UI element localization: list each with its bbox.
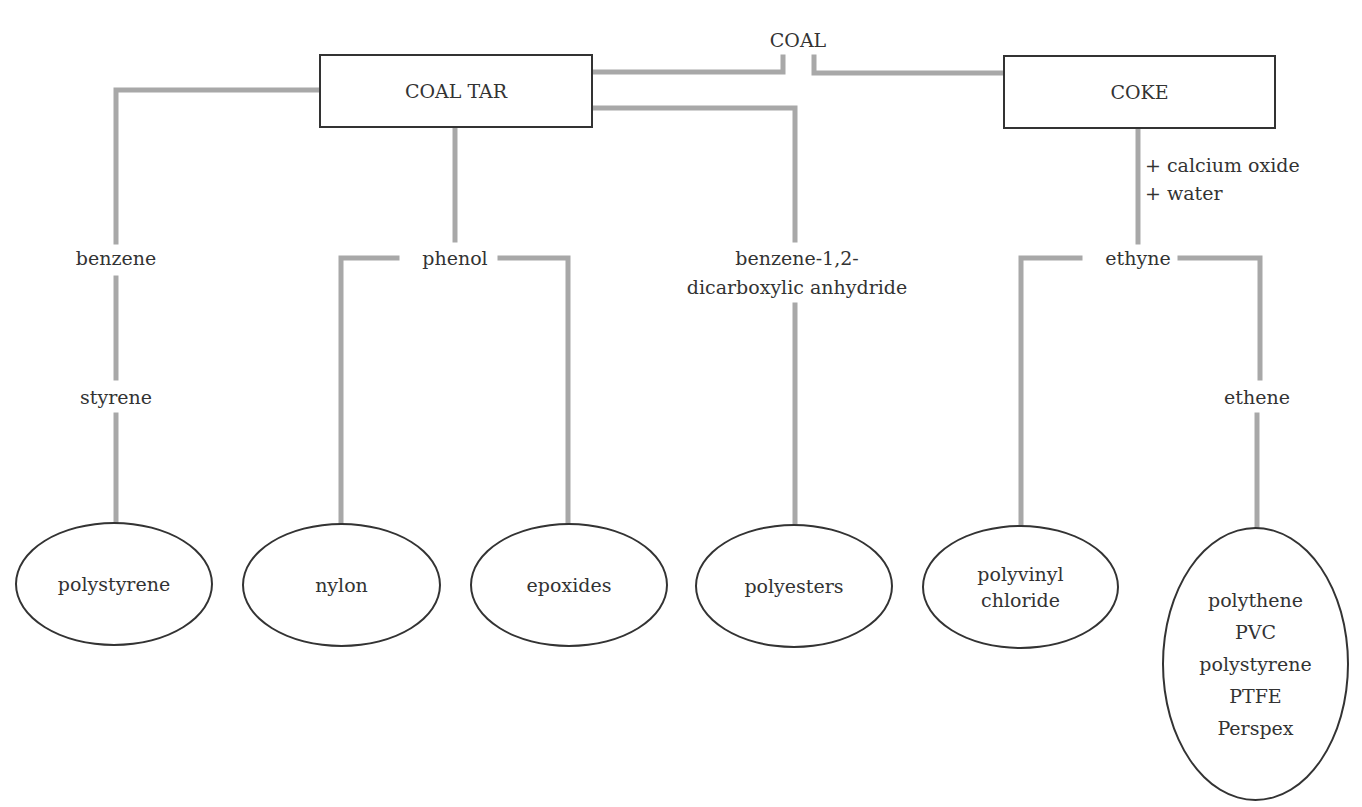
anhydride-label-line2: dicarboxylic anhydride xyxy=(681,275,913,299)
connector-phenol-to-epoxides xyxy=(500,258,568,522)
product-nylon: nylon xyxy=(242,523,441,647)
connector-coaltar-to-benzene xyxy=(116,90,319,242)
reagent-note-calcium-oxide: + calcium oxide xyxy=(1145,152,1300,178)
product-label: polystyrene xyxy=(58,571,170,597)
product-label: Perspex xyxy=(1217,712,1293,744)
product-polyvinyl-chloride: polyvinyl chloride xyxy=(922,525,1119,649)
benzene-label: benzene xyxy=(70,246,162,270)
product-label: chloride xyxy=(981,587,1060,613)
product-label: polystyrene xyxy=(1199,648,1311,680)
product-label: epoxides xyxy=(527,572,612,598)
product-epoxides: epoxides xyxy=(470,523,668,647)
coke-box: COKE xyxy=(1003,55,1276,129)
coal-tar-box: COAL TAR xyxy=(319,54,593,128)
product-label: nylon xyxy=(315,572,368,598)
product-label: PVC xyxy=(1235,616,1276,648)
coal-tar-label: COAL TAR xyxy=(405,80,507,102)
connector-coaltar-to-anhydride xyxy=(592,108,795,240)
connector-ethyne-to-pvc xyxy=(1021,258,1080,524)
connector-coal-to-coke xyxy=(814,57,1003,73)
reagent-note-water: + water xyxy=(1145,180,1223,206)
coke-label: COKE xyxy=(1110,81,1168,103)
phenol-label: phenol xyxy=(416,246,493,270)
product-polyesters: polyesters xyxy=(695,524,893,648)
product-label: polyvinyl xyxy=(977,561,1063,587)
connector-coal-to-coaltar xyxy=(592,57,783,72)
styrene-label: styrene xyxy=(74,385,158,409)
product-label: polythene xyxy=(1208,584,1303,616)
connector-phenol-to-nylon xyxy=(341,258,397,522)
ethyne-label: ethyne xyxy=(1099,246,1176,270)
product-polystyrene: polystyrene xyxy=(15,522,213,646)
coal-label: COAL xyxy=(764,28,832,52)
product-label: polyesters xyxy=(744,573,843,599)
product-ethene-polymers: polythene PVC polystyrene PTFE Perspex xyxy=(1162,527,1349,801)
ethene-label: ethene xyxy=(1218,385,1296,409)
connector-ethyne-to-ethene xyxy=(1180,258,1260,378)
product-label: PTFE xyxy=(1229,680,1282,712)
anhydride-label-line1: benzene-1,2- xyxy=(729,246,864,270)
